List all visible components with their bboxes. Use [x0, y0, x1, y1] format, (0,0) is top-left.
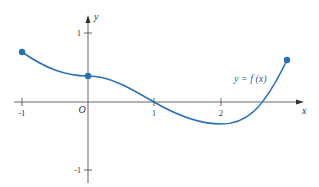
y-tick-label: 1	[77, 29, 81, 38]
x-tick-label: -1	[19, 109, 26, 118]
endpoint-left	[19, 49, 25, 55]
x-axis-arrow-icon	[296, 100, 304, 105]
curve-label: y = f (x)	[233, 73, 267, 85]
point-y-intercept	[85, 73, 91, 79]
x-tick-label: 1	[152, 109, 156, 118]
chart-canvas: -1 1 2 1 -1 O y x y = f (x)	[0, 0, 319, 187]
function-graph: -1 1 2 1 -1 O y x y = f (x)	[0, 0, 319, 187]
x-axis-label: x	[301, 105, 307, 116]
y-tick-label: -1	[74, 166, 81, 175]
x-tick-label: 2	[219, 109, 223, 118]
y-axis-label: y	[93, 11, 99, 22]
endpoint-right	[284, 57, 290, 63]
origin-label: O	[78, 104, 85, 115]
y-axis-arrow-icon	[86, 15, 91, 23]
